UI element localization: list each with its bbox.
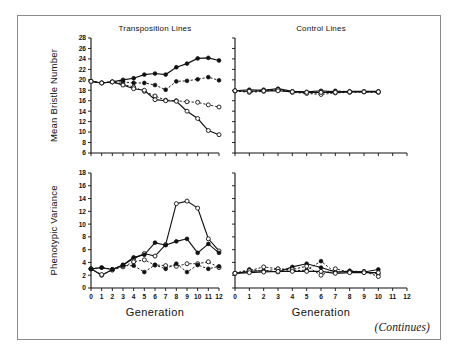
data-point [121, 264, 125, 268]
data-point [164, 73, 168, 77]
data-point [132, 87, 136, 91]
data-point [185, 270, 189, 274]
data-point [217, 251, 221, 255]
x-tick-label: 2 [110, 293, 114, 300]
data-point [362, 271, 366, 275]
data-point [132, 81, 136, 85]
panel-title: Transposition Lines [119, 24, 192, 33]
data-point [196, 251, 200, 255]
data-point [100, 273, 104, 277]
data-point [185, 199, 189, 203]
chart-bottom-left: 0246810121416180123456789101112Phenotypi… [48, 169, 223, 318]
y-tick-label: 26 [79, 45, 87, 52]
data-point [206, 237, 210, 241]
y-tick-label: 16 [79, 182, 87, 189]
x-tick-label: 11 [205, 293, 212, 300]
y-tick-label: 18 [79, 87, 87, 94]
y-tick-label: 22 [79, 66, 87, 73]
y-tick-label: 10 [79, 128, 87, 135]
data-point [305, 269, 309, 273]
x-tick-label: 9 [362, 293, 366, 300]
data-point [217, 105, 221, 109]
data-point [276, 269, 280, 273]
data-point [142, 258, 146, 262]
chart-bottom-right: 0123456789101112Generation [232, 173, 411, 318]
data-point [319, 269, 323, 273]
x-tick-label: 9 [185, 293, 189, 300]
data-point [196, 56, 200, 60]
data-point [217, 78, 221, 82]
x-tick-label: 1 [247, 293, 251, 300]
data-point [153, 254, 157, 258]
data-point [132, 76, 136, 80]
data-point [110, 80, 114, 84]
x-tick-label: 6 [153, 293, 157, 300]
data-point [89, 79, 93, 83]
y-tick-label: 10 [79, 221, 87, 228]
figure-frame: 6810121416182022242628Transposition Line… [17, 15, 441, 340]
data-point [174, 65, 178, 69]
x-tick-label: 11 [389, 293, 396, 300]
x-tick-label: 2 [262, 293, 266, 300]
data-point [174, 262, 178, 266]
data-point [142, 81, 146, 85]
x-tick-label: 3 [121, 293, 125, 300]
data-point [142, 270, 146, 274]
data-point [376, 271, 380, 275]
data-point [110, 268, 114, 272]
x-tick-label: 6 [319, 293, 323, 300]
data-point [348, 271, 352, 275]
data-point [348, 90, 352, 94]
data-point [206, 103, 210, 107]
data-point [262, 89, 266, 93]
data-point [164, 88, 168, 92]
data-point [206, 56, 210, 60]
data-point [164, 243, 168, 247]
series-line [91, 81, 219, 134]
y-tick-label: 6 [82, 149, 86, 156]
panel-title: Control Lines [296, 24, 346, 33]
data-point [174, 239, 178, 243]
data-point [132, 264, 136, 268]
y-tick-label: 8 [82, 139, 86, 146]
data-point [290, 269, 294, 273]
x-tick-label: 3 [276, 293, 280, 300]
x-tick-label: 12 [403, 293, 411, 300]
data-point [153, 98, 157, 102]
x-tick-label: 12 [215, 293, 223, 300]
x-tick-label: 0 [89, 293, 93, 300]
x-tick-label: 10 [194, 293, 202, 300]
y-tick-label: 14 [79, 195, 87, 202]
data-point [206, 267, 210, 271]
y-tick-label: 6 [82, 246, 86, 253]
data-point [153, 263, 157, 267]
data-point [217, 133, 221, 137]
data-point [185, 79, 189, 83]
data-point [290, 90, 294, 94]
data-point [196, 263, 200, 267]
y-tick-label: 8 [82, 233, 86, 240]
data-point [100, 81, 104, 85]
continues-note: (Continues) [375, 321, 430, 333]
y-tick-label: 14 [79, 108, 87, 115]
data-point [333, 90, 337, 94]
data-point [206, 260, 210, 264]
data-point [174, 79, 178, 83]
data-point [217, 59, 221, 63]
data-point [142, 253, 146, 257]
data-point [206, 129, 210, 133]
data-point [319, 259, 323, 263]
figure-plot-area: 6810121416182022242628Transposition Line… [18, 16, 440, 339]
data-point [196, 100, 200, 104]
data-point [233, 271, 237, 275]
x-tick-label: 7 [164, 293, 168, 300]
x-axis-label: Generation [292, 306, 350, 318]
x-tick-label: 5 [142, 293, 146, 300]
data-point [153, 241, 157, 245]
x-axis-label: Generation [126, 306, 184, 318]
data-point [276, 89, 280, 93]
data-point [333, 267, 337, 271]
y-tick-label: 28 [79, 34, 87, 41]
data-point [153, 72, 157, 76]
x-tick-label: 4 [132, 293, 136, 300]
